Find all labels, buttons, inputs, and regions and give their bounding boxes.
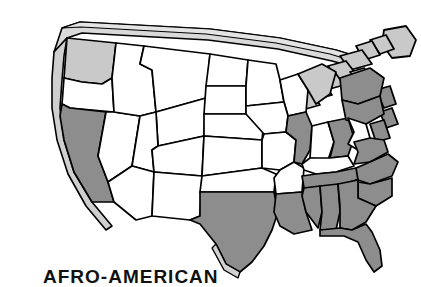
map-region-TX <box>190 192 278 272</box>
figure-caption: AFRO-AMERICAN <box>43 267 219 286</box>
map-region-WA <box>64 38 116 84</box>
map-region-AL <box>320 184 340 230</box>
us-choropleth-map: AFRO-AMERICAN <box>40 16 421 282</box>
map-region-FL <box>320 224 382 272</box>
map-svg <box>40 16 421 282</box>
